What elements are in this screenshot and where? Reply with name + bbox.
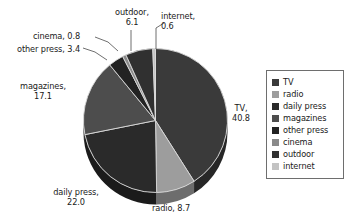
pie-label-radio: radio, 8.7 [152, 203, 218, 213]
pie-label-outdoor-line2: 6.1 [106, 17, 158, 27]
legend-swatch-icon [272, 91, 279, 98]
legend-item-label: TV [283, 78, 293, 87]
legend-item[interactable]: internet [272, 161, 339, 173]
legend-item[interactable]: outdoor [272, 149, 339, 161]
pie-label-tv: TV, 40.8 [224, 103, 258, 123]
legend-swatch-icon [272, 139, 279, 146]
legend-item-label: daily press [283, 102, 326, 111]
legend-swatch-icon [272, 115, 279, 122]
pie-label-cinema: cinema, 0.8 [16, 31, 80, 41]
legend-item-label: other press [283, 126, 328, 135]
legend-swatch-icon [272, 79, 279, 86]
legend-swatch-icon [272, 127, 279, 134]
legend-item-label: radio [283, 90, 303, 99]
legend-item[interactable]: other press [272, 124, 339, 136]
pie-label-magazines-line1: magazines, [10, 81, 76, 91]
pie-label-other-press: other press, 3.4 [2, 44, 80, 54]
pie-chart: outdoor, 6.1 internet, 0.6 cinema, 0.8 o… [0, 0, 353, 221]
pie-label-outdoor-line1: outdoor, [106, 7, 158, 17]
pie-label-magazines: magazines, 17.1 [10, 81, 76, 101]
leader-line-other-press [83, 48, 107, 60]
chart-legend: TVradiodaily pressmagazinesother pressci… [266, 70, 344, 179]
pie-slices [84, 48, 228, 192]
pie-label-tv-line2: 40.8 [224, 113, 258, 123]
pie-label-cinema-line1: cinema, 0.8 [16, 31, 80, 41]
pie-label-magazines-line2: 17.1 [10, 91, 76, 101]
pie-label-internet-line2: 0.6 [161, 21, 217, 31]
legend-item[interactable]: magazines [272, 112, 339, 124]
legend-item-label: magazines [283, 114, 326, 123]
legend-item[interactable]: daily press [272, 100, 339, 112]
pie-label-daily-press-line1: daily press, [41, 187, 111, 197]
legend-swatch-icon [272, 103, 279, 110]
pie-label-daily-press: daily press, 22.0 [41, 187, 111, 207]
pie-label-outdoor: outdoor, 6.1 [106, 7, 158, 27]
leader-line-cinema [95, 37, 118, 51]
legend-item[interactable]: radio [272, 88, 339, 100]
legend-swatch-icon [272, 151, 279, 158]
legend-item[interactable]: cinema [272, 136, 339, 148]
pie-label-radio-line1: radio, 8.7 [152, 203, 218, 213]
pie-label-daily-press-line2: 22.0 [41, 197, 111, 207]
legend-swatch-icon [272, 163, 279, 170]
pie-label-tv-line1: TV, [224, 103, 258, 113]
pie-label-internet: internet, 0.6 [161, 11, 217, 31]
legend-item-label: outdoor [283, 150, 314, 159]
pie-label-internet-line1: internet, [161, 11, 217, 21]
pie-label-other-press-line1: other press, 3.4 [2, 44, 80, 54]
legend-item-label: internet [283, 162, 315, 171]
legend-item-label: cinema [283, 138, 312, 147]
legend-item[interactable]: TV [272, 76, 339, 88]
